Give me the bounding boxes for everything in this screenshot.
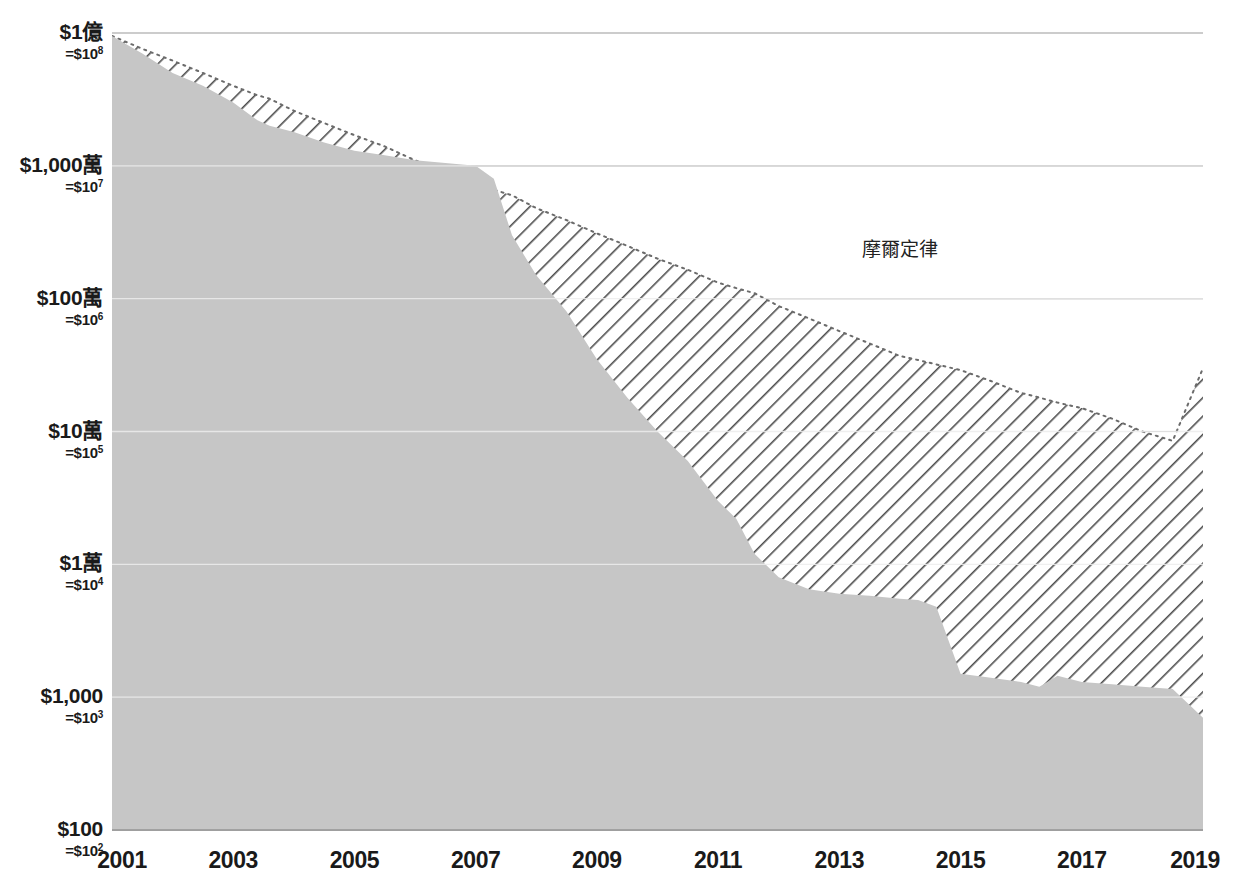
x-axis-tick-labels: 2001200320052007200920112013201520172019 [97,847,1220,873]
x-tick-label-2017: 2017 [1057,847,1107,873]
y-axis-tick-labels: $100=$102$1,000=$103$1萬=$104$10萬=$105$10… [20,20,104,859]
y-tick-label-sub-100000000: =$108 [65,45,104,62]
y-tick-label-sub-100000: =$105 [65,444,104,461]
y-tick-label-sub-1000: =$103 [65,709,104,726]
x-tick-label-2001: 2001 [97,847,147,873]
genome-sequencing-cost-chart: $100=$102$1,000=$103$1萬=$104$10萬=$105$10… [0,0,1246,895]
y-tick-label-main-100000: $10萬 [48,419,103,442]
x-tick-label-2009: 2009 [572,847,622,873]
y-tick-label-main-100: $100 [57,817,103,840]
y-tick-label-main-1000: $1,000 [41,684,103,707]
y-tick-label-main-100000000: $1億 [60,20,104,43]
x-tick-label-2013: 2013 [815,847,865,873]
y-tick-label-main-10000: $1萬 [60,551,103,574]
annotation-moores-law: 摩爾定律 [862,239,938,260]
chart-svg: $100=$102$1,000=$103$1萬=$104$10萬=$105$10… [0,0,1246,895]
x-tick-label-2015: 2015 [936,847,986,873]
chart-annotations: 摩爾定律 [862,239,938,260]
y-tick-label-main-10000000: $1,000萬 [20,153,103,176]
y-tick-label-main-1000000: $100萬 [37,286,103,309]
x-tick-label-2011: 2011 [694,847,743,873]
y-tick-label-sub-10000000: =$107 [65,178,104,195]
y-tick-label-sub-1000000: =$106 [65,311,104,328]
x-tick-label-2005: 2005 [330,847,380,873]
y-tick-label-sub-10000: =$104 [65,576,104,593]
x-tick-label-2007: 2007 [451,847,501,873]
x-tick-label-2003: 2003 [208,847,258,873]
x-tick-label-2019: 2019 [1170,847,1220,873]
